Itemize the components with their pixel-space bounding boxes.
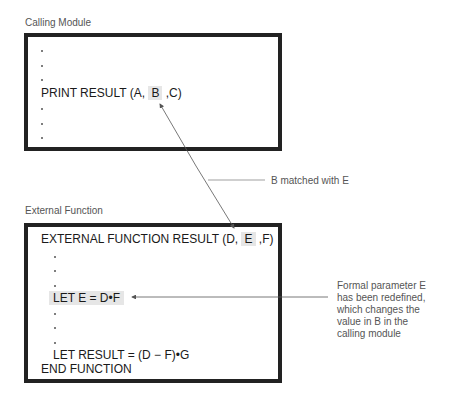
redefine-line: which changes the	[337, 304, 426, 316]
connector-lines	[0, 0, 454, 402]
redefine-annotation: Formal parameter E has been redefined, w…	[337, 280, 426, 340]
redefine-line: value in B in the	[337, 316, 426, 328]
redefine-line: has been redefined,	[337, 292, 426, 304]
redefine-line: calling module	[337, 328, 426, 340]
match-annotation: B matched with E	[271, 175, 349, 187]
redefine-line: Formal parameter E	[337, 280, 426, 292]
